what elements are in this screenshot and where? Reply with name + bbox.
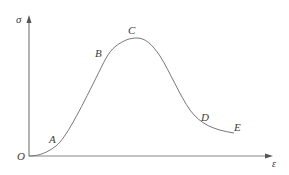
point-label-b: B xyxy=(95,48,102,59)
y-axis-label: σ xyxy=(16,14,21,25)
point-label-e: E xyxy=(234,122,241,133)
origin-label: O xyxy=(17,151,25,162)
y-axis-arrow-icon xyxy=(27,15,32,23)
point-label-c: C xyxy=(128,25,135,36)
point-label-a: A xyxy=(49,134,56,145)
stress-strain-curve xyxy=(29,38,234,156)
x-axis-label: ε xyxy=(272,159,276,169)
point-label-d: D xyxy=(201,112,209,123)
stress-strain-diagram xyxy=(0,0,289,175)
